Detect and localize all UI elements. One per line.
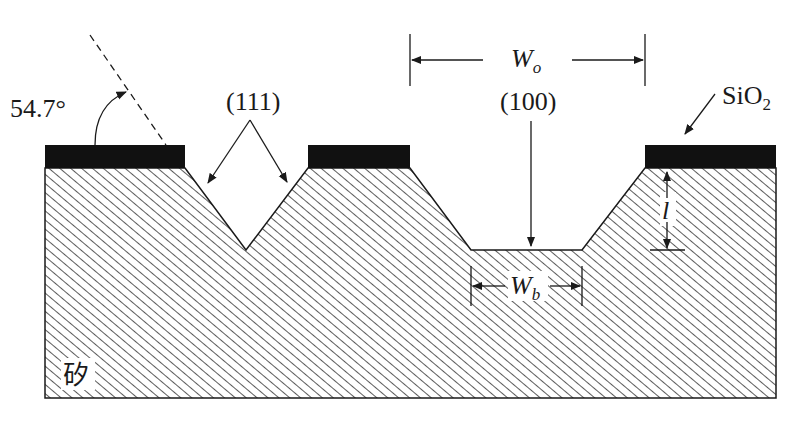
- depth-label: l: [662, 196, 669, 225]
- oxide-mask-middle: [308, 145, 410, 168]
- angle-arc-arrow: [95, 92, 126, 145]
- angle-label: 54.7°: [10, 94, 66, 123]
- plane-111-arrow-right: [250, 120, 287, 182]
- wo-label: Wo: [511, 44, 541, 77]
- oxide-mask-left: [45, 145, 185, 168]
- oxide-arrow: [685, 94, 715, 134]
- plane-111-label: (111): [226, 87, 280, 116]
- oxide-label: SiO2: [722, 81, 771, 114]
- plane-100-label: (100): [500, 87, 556, 116]
- etch-diagram: 54.7° (111) Wo (100) SiO2 l Wb 矽: [0, 0, 812, 433]
- substrate-label: 矽: [63, 360, 89, 390]
- oxide-mask-right: [645, 145, 776, 168]
- angle-dashed-line: [90, 35, 166, 145]
- plane-111-arrow-left: [208, 120, 250, 183]
